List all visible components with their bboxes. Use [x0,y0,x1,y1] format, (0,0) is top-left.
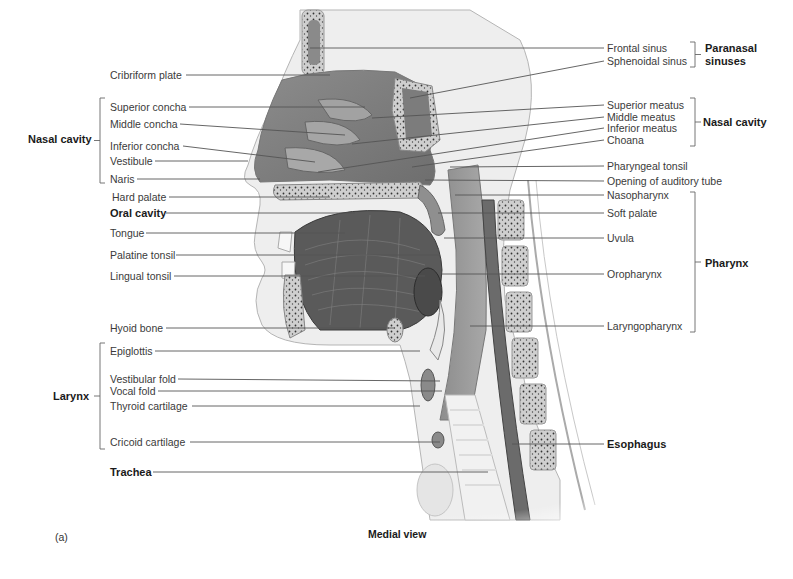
label-inferior-concha: Inferior concha [110,140,179,152]
label-nasopharynx: Nasopharynx [607,189,669,201]
label-cricoid-cartilage: Cricoid cartilage [110,436,185,448]
head-neck-sagittal-illustration [0,0,793,579]
label-vestibule: Vestibule [110,155,153,167]
label-trachea: Trachea [110,466,152,478]
label-pharyngeal-tonsil: Pharyngeal tonsil [607,160,688,172]
label-uvula: Uvula [607,232,634,244]
label-hard-palate: Hard palate [112,191,166,203]
group-bracket [690,42,701,67]
label-sphenoidal-sinus: Sphenoidal sinus [607,55,687,67]
group-bracket [94,98,105,183]
label-soft-palate: Soft palate [607,207,657,219]
group-larynx: Larynx [53,390,89,403]
label-inferior-meatus: Inferior meatus [607,122,677,134]
label-opening-auditory-tube: Opening of auditory tube [607,175,722,187]
panel-label: (a) [55,531,68,543]
group-bracket [690,192,701,332]
label-oral-cavity: Oral cavity [110,207,166,219]
group-pharynx: Pharynx [705,257,748,270]
label-thyroid-cartilage: Thyroid cartilage [110,400,188,412]
label-epiglottis: Epiglottis [110,345,153,357]
label-palatine-tonsil: Palatine tonsil [110,249,175,261]
label-frontal-sinus: Frontal sinus [607,42,667,54]
group-bracket [690,98,701,146]
label-vestibular-fold: Vestibular fold [110,373,176,385]
group-nasal-cavity-left: Nasal cavity [28,133,92,146]
label-vocal-fold: Vocal fold [110,385,156,397]
label-choana: Choana [607,134,644,146]
view-caption: Medial view [368,528,426,540]
label-superior-concha: Superior concha [110,101,186,113]
label-hyoid-bone: Hyoid bone [110,322,163,334]
group-nasal-cavity-right: Nasal cavity [703,116,767,129]
label-esophagus: Esophagus [607,438,666,450]
label-tongue: Tongue [110,227,144,239]
label-superior-meatus: Superior meatus [607,99,684,111]
label-middle-concha: Middle concha [110,118,178,130]
respiratory-anatomy-figure: Cribriform plate Superior concha Middle … [0,0,793,579]
group-paranasal-sinuses: Paranasal sinuses [705,42,765,68]
label-laryngopharynx: Laryngopharynx [607,320,682,332]
label-lingual-tonsil: Lingual tonsil [110,270,171,282]
label-naris: Naris [110,173,135,185]
label-cribriform-plate: Cribriform plate [110,69,182,81]
label-oropharynx: Oropharynx [607,268,662,280]
leader-line [178,379,440,381]
group-bracket [94,343,105,449]
